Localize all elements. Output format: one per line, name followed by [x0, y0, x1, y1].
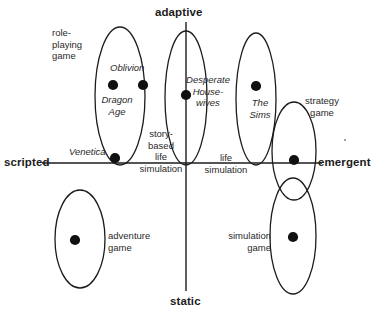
data-point-strategy-game — [289, 155, 299, 165]
axis-label-static: static — [170, 295, 201, 307]
game-label-dragon-age: Dragon Age — [96, 94, 138, 117]
cluster-label-strategy-game: strategy game — [295, 95, 349, 118]
data-point-venetica — [110, 153, 120, 163]
data-point-oblivion — [138, 80, 148, 90]
data-point-adventure-game — [70, 235, 80, 245]
game-label-desperate-housewives: Desperate House- wives — [183, 74, 233, 109]
diagram-canvas: adaptive static scripted emergent role- … — [0, 0, 371, 313]
axis-label-scripted: scripted — [4, 156, 50, 168]
axis-label-adaptive: adaptive — [155, 6, 202, 18]
game-label-the-sims: The Sims — [244, 97, 276, 120]
data-point-the-sims — [251, 81, 261, 91]
cluster-label-simulation-game: simulation game — [205, 230, 271, 253]
data-point-simulation-game — [288, 232, 298, 242]
cluster-label-role-playing-game: role- playing game — [52, 27, 82, 62]
axis-label-emergent: emergent — [318, 156, 371, 168]
cluster-label-life-simulation: life simulation — [200, 152, 252, 175]
cluster-label-adventure-game: adventure game — [108, 230, 150, 253]
cluster-label-story-based-life-simulation: story- based life simulation — [135, 128, 187, 174]
game-label-oblivion: Oblivion — [110, 62, 144, 74]
data-point-dragon-age — [108, 80, 118, 90]
scan-speck-artifact — [344, 139, 346, 141]
game-label-venetica: Venetica — [69, 146, 106, 158]
